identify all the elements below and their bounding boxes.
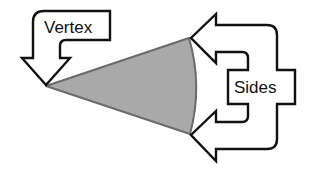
sides-label: Sides [234,78,277,97]
angle-diagram: Vertex Sides [0,0,315,171]
angle-sector [46,38,196,134]
vertex-label: Vertex [44,18,93,37]
